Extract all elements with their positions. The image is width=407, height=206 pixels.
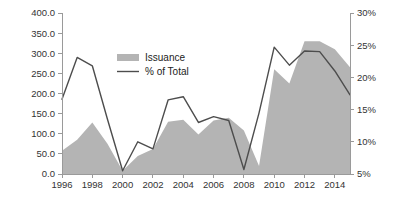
x-tick-label-2012: 2012: [294, 179, 315, 190]
left-tick-label-0: 0.0: [42, 168, 55, 179]
x-tick-label-1996: 1996: [51, 179, 72, 190]
right-axis-tick-labels: 5%10%15%20%25%30%: [357, 7, 377, 179]
x-axis-tick-labels: 1996199820002002200420062008201020122014: [51, 179, 345, 190]
right-tick-label-15: 15%: [357, 104, 377, 115]
left-tick-label-50: 50.0: [37, 148, 56, 159]
left-tick-label-400: 400.0: [31, 7, 55, 18]
left-axis-ticks: [58, 13, 62, 174]
legend-swatch-issuance: [117, 54, 139, 61]
left-tick-label-250: 250.0: [31, 68, 55, 79]
left-axis-tick-labels: 0.050.0100.0150.0200.0250.0300.0350.0400…: [31, 7, 55, 179]
x-tick-label-2000: 2000: [112, 179, 133, 190]
x-tick-label-2004: 2004: [173, 179, 194, 190]
chart-canvas: 0.050.0100.0150.0200.0250.0300.0350.0400…: [0, 0, 407, 206]
right-tick-label-5: 5%: [357, 168, 371, 179]
x-tick-label-1998: 1998: [82, 179, 103, 190]
x-tick-label-2008: 2008: [233, 179, 254, 190]
left-tick-label-150: 150.0: [31, 108, 55, 119]
x-tick-label-2014: 2014: [324, 179, 345, 190]
right-tick-label-20: 20%: [357, 72, 377, 83]
right-tick-label-10: 10%: [357, 136, 377, 147]
left-tick-label-350: 350.0: [31, 28, 55, 39]
x-axis-ticks: [62, 174, 335, 178]
legend-label-issuance: Issuance: [145, 52, 185, 63]
x-tick-label-2006: 2006: [203, 179, 224, 190]
left-tick-label-100: 100.0: [31, 128, 55, 139]
right-axis-ticks: [350, 13, 354, 174]
x-tick-label-2002: 2002: [142, 179, 163, 190]
legend-label-percent-of-total: % of Total: [145, 66, 189, 77]
left-tick-label-200: 200.0: [31, 88, 55, 99]
right-tick-label-30: 30%: [357, 7, 377, 18]
left-tick-label-300: 300.0: [31, 48, 55, 59]
x-tick-label-2010: 2010: [264, 179, 285, 190]
right-tick-label-25: 25%: [357, 40, 377, 51]
chart-container: 0.050.0100.0150.0200.0250.0300.0350.0400…: [0, 0, 407, 206]
